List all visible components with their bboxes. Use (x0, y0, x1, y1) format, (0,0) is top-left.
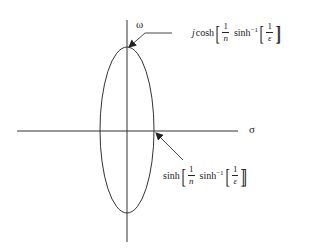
omega-label: ω (136, 19, 143, 30)
left-bracket: [ (216, 23, 220, 43)
fraction-1-over-epsilon: 1 ε (266, 22, 273, 43)
fraction-1-over-n: 1 n (222, 22, 229, 43)
right-leader-line (156, 133, 183, 160)
left-bracket: [ (260, 23, 264, 43)
left-bracket: [ (181, 166, 185, 186)
top-annotation-expression: j cosh [ 1 n sinh −1 [ 1 ε ] ] (192, 22, 283, 43)
cosh-func: cosh (196, 27, 214, 38)
right-annotation-expression: sinh [ 1 n sinh −1 [ 1 ε ] ] (163, 165, 248, 186)
right-bracket: ] (242, 166, 246, 186)
asinh-func: sinh (234, 27, 251, 38)
top-leader-line (129, 33, 172, 47)
sigma-label: σ (249, 124, 255, 135)
sinh-func: sinh (163, 170, 180, 181)
left-bracket: [ (225, 166, 229, 186)
asinh-func: sinh (200, 170, 217, 181)
imag-unit: j (192, 27, 195, 38)
fraction-1-over-epsilon: 1 ε (232, 165, 239, 186)
inverse-superscript: −1 (216, 169, 223, 177)
inverse-superscript: −1 (251, 26, 258, 34)
right-bracket: ] (277, 23, 281, 43)
fraction-1-over-n: 1 n (188, 165, 195, 186)
